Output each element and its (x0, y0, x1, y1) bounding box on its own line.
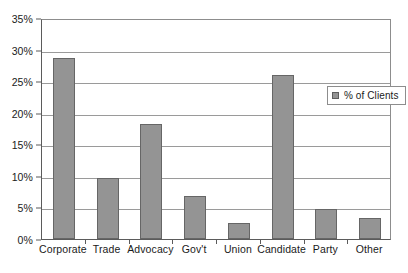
x-axis-tick-label: Other (356, 243, 383, 255)
x-axis-tick-label: Corporate (39, 243, 87, 255)
x-axis-tick-mark (304, 240, 305, 244)
y-axis-tick-label: 20% (12, 108, 33, 120)
x-axis-tick-mark (129, 240, 130, 244)
gridline (42, 178, 390, 179)
y-axis-tick-mark (36, 208, 41, 209)
bar (228, 223, 250, 239)
gridline (42, 115, 390, 116)
gridline (42, 209, 390, 210)
x-axis-tick-label: Gov't (182, 243, 207, 255)
y-axis-tick-label: 10% (12, 171, 33, 183)
x-axis-tick-mark (260, 240, 261, 244)
x-axis-tick-label: Union (224, 243, 252, 255)
legend-label: % of Clients (344, 90, 399, 101)
y-axis-tick-mark (36, 82, 41, 83)
bar (140, 124, 162, 239)
y-axis-tick-mark (36, 145, 41, 146)
y-axis: 0%5%10%15%20%25%30%35% (0, 0, 41, 273)
gridline (42, 146, 390, 147)
x-axis-tick-label: Candidate (257, 243, 306, 255)
bar (315, 209, 337, 239)
bar (53, 58, 75, 239)
y-axis-tick-label: 5% (18, 202, 33, 214)
bar (359, 218, 381, 239)
x-axis-tick-label: Trade (93, 243, 121, 255)
x-axis-tick-mark (172, 240, 173, 244)
x-axis-tick-label: Advocacy (127, 243, 173, 255)
y-axis-tick-mark (36, 19, 41, 20)
y-axis-tick-label: 25% (12, 76, 33, 88)
y-axis-tick-mark (36, 113, 41, 114)
x-axis: CorporateTradeAdvocacyGov'tUnionCandidat… (41, 243, 391, 263)
gridline (42, 52, 390, 53)
y-axis-tick-label: 15% (12, 139, 33, 151)
legend-swatch-icon (332, 92, 339, 99)
x-axis-tick-mark (85, 240, 86, 244)
x-axis-tick-mark (347, 240, 348, 244)
legend: % of Clients (327, 86, 406, 105)
y-axis-tick-label: 35% (12, 13, 33, 25)
x-axis-tick-mark (216, 240, 217, 244)
plot-area (41, 19, 391, 240)
y-axis-tick-mark (36, 50, 41, 51)
x-axis-tick-label: Party (313, 243, 338, 255)
y-axis-tick-mark (36, 176, 41, 177)
y-axis-tick-label: 30% (12, 45, 33, 57)
y-axis-tick-mark (36, 240, 41, 241)
bar (272, 75, 294, 239)
y-axis-tick-label: 0% (18, 234, 33, 246)
bar-chart: 0%5%10%15%20%25%30%35% CorporateTradeAdv… (0, 0, 408, 273)
bar (97, 178, 119, 239)
gridline (42, 83, 390, 84)
bar (184, 196, 206, 239)
